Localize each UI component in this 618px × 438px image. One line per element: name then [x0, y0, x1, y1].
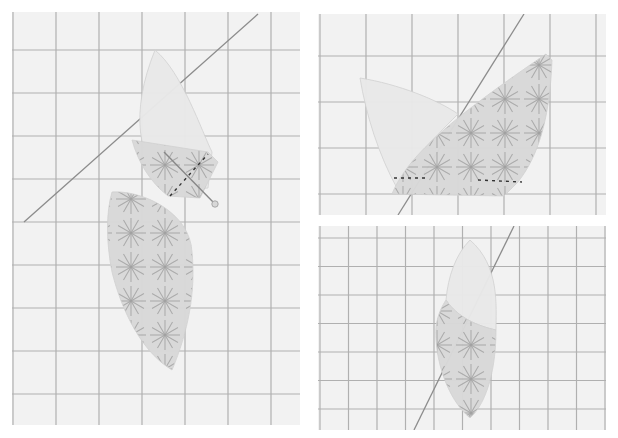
cutting-mat — [318, 14, 606, 215]
print-fabric-piece — [108, 192, 194, 370]
photo-panel-pinned-pieces — [12, 12, 300, 425]
cutting-mat — [318, 226, 606, 430]
photo-panel-opened-petal — [318, 14, 606, 215]
photo-panel-finished-petal — [318, 226, 606, 430]
cutting-mat — [12, 12, 300, 425]
